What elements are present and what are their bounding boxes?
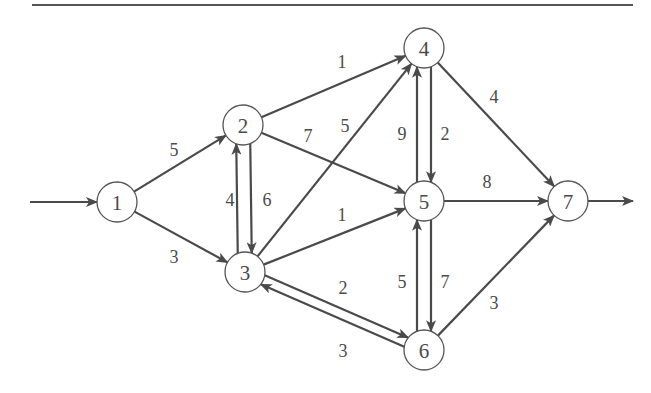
edge-weight-6-3: 3 xyxy=(339,341,348,361)
edge-3-to-4 xyxy=(257,64,411,257)
node-label-7: 7 xyxy=(563,190,574,214)
node-3: 3 xyxy=(225,252,265,292)
nodes-layer: 1234567 xyxy=(97,28,588,370)
edge-3-to-2 xyxy=(236,144,237,254)
weight-labels-layer: 53461751239257483 xyxy=(170,52,499,361)
edge-weight-3-2: 6 xyxy=(263,190,272,210)
edge-weight-5-7: 8 xyxy=(483,172,492,192)
edge-weight-4-5: 9 xyxy=(398,124,407,144)
node-label-2: 2 xyxy=(238,114,249,138)
edge-weight-2-5: 7 xyxy=(304,126,313,146)
edge-weight-1-3: 3 xyxy=(170,247,179,267)
edge-1-to-3 xyxy=(135,212,228,263)
edge-weight-3-4: 5 xyxy=(341,116,350,136)
edge-3-to-6 xyxy=(265,275,408,338)
node-label-3: 3 xyxy=(240,261,251,285)
node-1: 1 xyxy=(97,182,137,222)
edge-weight-3-6: 2 xyxy=(339,278,348,298)
edge-4-to-7 xyxy=(438,63,555,187)
node-label-6: 6 xyxy=(419,339,430,363)
edge-2-to-3 xyxy=(250,144,251,254)
edge-weight-5-4: 2 xyxy=(441,124,450,144)
node-5: 5 xyxy=(404,181,444,221)
node-4: 4 xyxy=(404,28,444,68)
edge-weight-2-3: 4 xyxy=(226,190,235,210)
edge-weight-3-5: 1 xyxy=(338,205,347,225)
edge-weight-2-4: 1 xyxy=(338,52,347,72)
edge-6-to-3 xyxy=(261,284,404,347)
node-2: 2 xyxy=(223,105,263,145)
node-7: 7 xyxy=(548,181,588,221)
node-label-4: 4 xyxy=(419,37,430,61)
edge-6-to-7 xyxy=(438,215,554,335)
edge-weight-6-7: 3 xyxy=(490,293,499,313)
node-label-1: 1 xyxy=(112,191,123,215)
edge-weight-5-6: 5 xyxy=(398,272,407,292)
edge-3-to-5 xyxy=(264,208,406,264)
edge-1-to-2 xyxy=(134,135,226,191)
node-label-5: 5 xyxy=(419,190,430,214)
network-diagram: 53461751239257483 1234567 xyxy=(0,0,651,393)
edge-weight-4-7: 4 xyxy=(490,87,499,107)
edge-weight-1-2: 5 xyxy=(170,140,179,160)
edge-weight-6-5: 7 xyxy=(441,272,450,292)
node-6: 6 xyxy=(404,330,444,370)
edge-2-to-4 xyxy=(261,56,405,117)
